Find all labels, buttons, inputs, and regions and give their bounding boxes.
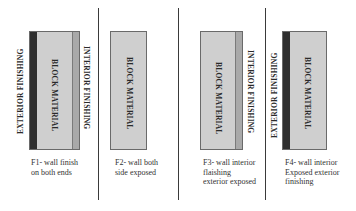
f1-interior-finishing-label: INTERIOR FINISHING (82, 46, 91, 129)
f1-wall-section: BLOCK MATERIAL (29, 31, 80, 150)
panel-divider-3 (265, 8, 266, 200)
f3-caption: F3- wall interior flaishing exterior exp… (203, 158, 256, 187)
f1-block-material-label: BLOCK MATERIAL (50, 59, 59, 131)
f1-caption: F1- wall finish on both ends (31, 158, 78, 177)
f4-block-material-label: BLOCK MATERIAL (303, 57, 312, 129)
f4-exterior-finishing-layer (283, 32, 290, 149)
f4-caption: F4- wall interior Exposed exterior finis… (285, 158, 339, 187)
f3-interior-finishing-layer (235, 32, 242, 149)
panel-divider-2 (178, 8, 179, 200)
f2-wall-section: BLOCK MATERIAL (110, 31, 147, 150)
f2-block-material-label: BLOCK MATERIAL (125, 57, 134, 129)
f4-wall-section: BLOCK MATERIAL (282, 31, 327, 150)
f3-interior-finishing-label: INTERIOR FINISHING (246, 50, 255, 133)
f4-exterior-finishing-label: EXTERIOR FINISHING (270, 53, 279, 139)
f1-exterior-finishing-label: EXTERIOR FINISHING (16, 49, 25, 135)
f2-caption: F2- wall both side exposed (115, 158, 158, 177)
f3-block-material-label: BLOCK MATERIAL (214, 62, 223, 134)
f3-wall-section: BLOCK MATERIAL (200, 31, 243, 150)
panel-divider-1 (98, 8, 99, 200)
f1-interior-finishing-layer (72, 32, 79, 149)
f1-exterior-finishing-layer (30, 32, 37, 149)
